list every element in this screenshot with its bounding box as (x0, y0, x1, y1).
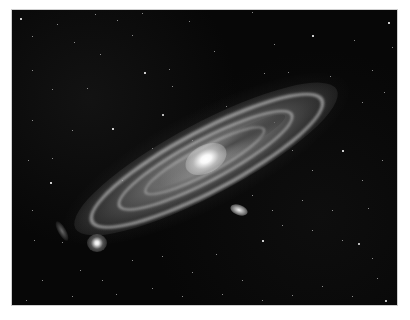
star (358, 243, 360, 245)
star (388, 22, 390, 24)
star (162, 114, 164, 116)
star (20, 18, 22, 20)
star (312, 35, 314, 37)
star (144, 72, 146, 74)
star (385, 300, 387, 302)
star (50, 182, 52, 184)
star (342, 150, 344, 152)
star (262, 240, 264, 242)
satellite-galaxy-compact (87, 234, 107, 252)
star (112, 128, 114, 130)
galaxy-photo (11, 9, 398, 306)
